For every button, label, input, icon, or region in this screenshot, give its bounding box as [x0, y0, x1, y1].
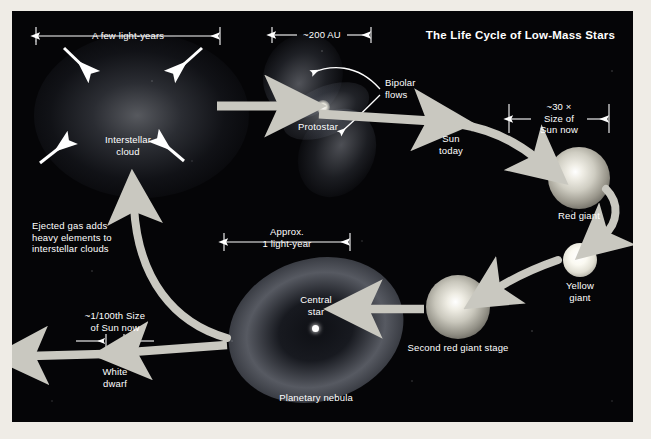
- label-white-dwarf: White dwarf: [80, 366, 150, 389]
- measure-label-30x-sun: ~30 × Size of Sun now: [525, 101, 593, 136]
- diagram-panel: The Life Cycle of Low-Mass Stars A few l…: [12, 11, 633, 422]
- label-red-giant: Red giant: [536, 210, 622, 222]
- label-protostar: Protostar: [280, 121, 356, 133]
- arrow-nebula-to-white-dwarf: [132, 345, 227, 352]
- label-planetary-nebula: Planetary nebula: [248, 392, 384, 404]
- label-yellow-giant: Yellow giant: [540, 280, 620, 303]
- label-central-star: Central star: [280, 294, 352, 317]
- label-interstellar-cloud: Interstellar cloud: [78, 134, 178, 157]
- measure-label-200-au: ~200 AU: [288, 29, 356, 41]
- label-sun-today: Sun today: [416, 133, 486, 156]
- measure-label-a-few-light-years: A few light-years: [68, 30, 188, 42]
- measure-label-hundredth-sun: ~1/100th Size of Sun now: [60, 310, 170, 333]
- note-ejected-gas: Ejected gas adds heavy elements to inter…: [32, 220, 160, 255]
- label-bipolar-flows: Bipolar flows: [385, 77, 451, 100]
- measure-hundredth-sun: [76, 334, 154, 347]
- arrow-protostar-to-sun: [319, 114, 432, 121]
- figure-page: The Life Cycle of Low-Mass Stars A few l…: [0, 0, 651, 439]
- figure-title: The Life Cycle of Low-Mass Stars: [426, 29, 615, 41]
- label-second-red-giant-stage: Second red giant stage: [387, 342, 529, 354]
- arrow-white-dwarf-outflow: [30, 354, 104, 356]
- measure-label-1-light-year: Approx. 1 light-year: [240, 226, 334, 249]
